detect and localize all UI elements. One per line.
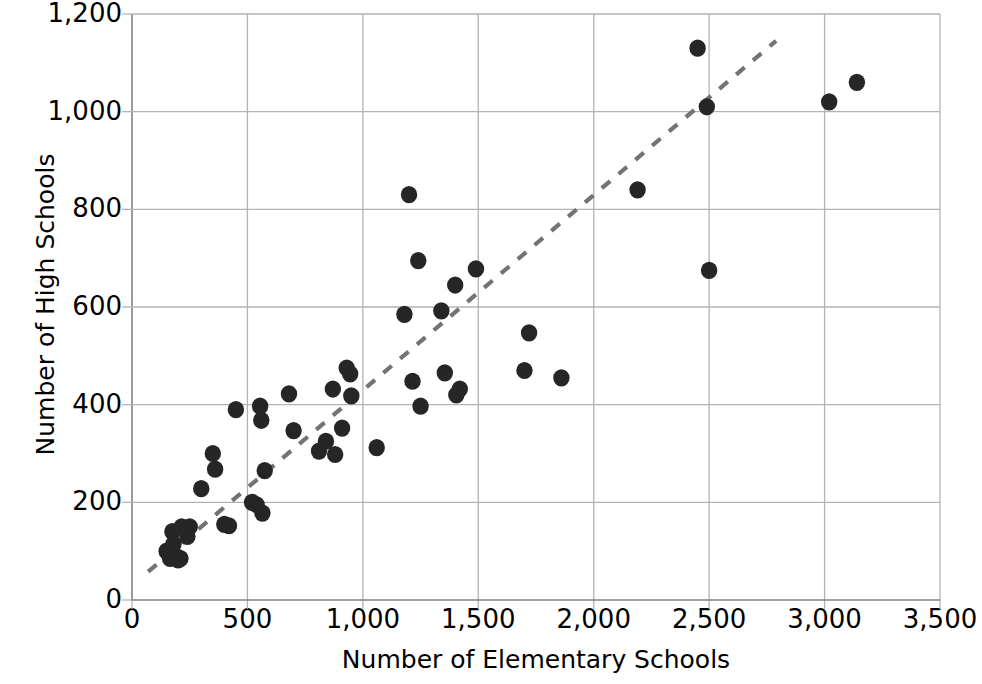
data-point xyxy=(285,422,301,439)
data-point xyxy=(521,324,537,341)
data-point xyxy=(325,380,341,397)
data-point xyxy=(699,98,715,115)
data-point xyxy=(253,412,269,429)
data-point xyxy=(404,373,420,390)
data-point xyxy=(452,380,468,397)
data-point xyxy=(437,364,453,381)
data-point xyxy=(257,462,273,479)
data-point xyxy=(401,186,417,203)
data-point xyxy=(849,74,865,91)
data-point xyxy=(182,518,198,535)
data-point xyxy=(701,262,717,279)
data-point xyxy=(342,365,358,382)
plot-area xyxy=(0,0,982,684)
data-point xyxy=(689,40,705,57)
data-point xyxy=(281,385,297,402)
data-point xyxy=(207,461,223,478)
data-point xyxy=(447,276,463,293)
data-point xyxy=(172,550,188,567)
trendline xyxy=(148,41,776,572)
data-point xyxy=(327,446,343,463)
data-point xyxy=(412,398,428,415)
data-points-group xyxy=(158,40,865,569)
data-point xyxy=(516,362,532,379)
data-point xyxy=(343,387,359,404)
data-point xyxy=(468,260,484,277)
data-point xyxy=(433,302,449,319)
data-point xyxy=(254,504,270,521)
data-point xyxy=(193,480,209,497)
data-point xyxy=(629,181,645,198)
data-point xyxy=(221,517,237,534)
data-point xyxy=(369,439,385,456)
data-point xyxy=(553,369,569,386)
data-point xyxy=(821,93,837,110)
data-point xyxy=(396,306,412,323)
data-point xyxy=(410,252,426,269)
data-point xyxy=(334,420,350,437)
data-point xyxy=(228,401,244,418)
data-point xyxy=(205,445,221,462)
scatter-chart: Number of High Schools Number of Element… xyxy=(0,0,982,684)
